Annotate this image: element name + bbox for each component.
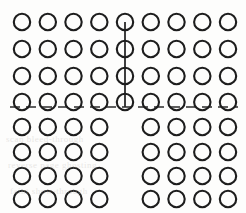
node-circle [14,191,30,207]
node-circle [143,41,159,57]
node-circle [91,68,107,84]
node-circle [40,94,56,110]
node-circle [91,168,107,184]
figure-container: scan bleed-through reverse page ghosting… [0,0,246,213]
node-circle [65,119,81,135]
node-circle [65,191,81,207]
node-circle [91,191,107,207]
node-circle [194,144,210,160]
node-circle [117,41,133,57]
node-circle [194,14,210,30]
node-circle [220,68,236,84]
node-circle [91,144,107,160]
node-circle [65,94,81,110]
node-circle [220,94,236,110]
node-circle [14,14,30,30]
node-circles-group [14,14,236,207]
node-circle [143,94,159,110]
node-circle [220,119,236,135]
node-circle [40,168,56,184]
node-circle [14,68,30,84]
node-circle [194,68,210,84]
node-circle [65,68,81,84]
node-circle [194,119,210,135]
node-circle [40,144,56,160]
node-circle [117,94,133,110]
node-circle [143,168,159,184]
node-circle [220,41,236,57]
node-circle [65,41,81,57]
node-circle [220,14,236,30]
node-circle [194,41,210,57]
node-grid-diagram [0,0,246,213]
node-circle [220,191,236,207]
node-circle [40,14,56,30]
node-circle [168,144,184,160]
node-circle [14,94,30,110]
node-circle [168,14,184,30]
node-circle [40,119,56,135]
node-circle [168,168,184,184]
node-circle [40,191,56,207]
node-circle [168,68,184,84]
node-circle [143,119,159,135]
node-circle [117,14,133,30]
node-circle [91,119,107,135]
node-circle [194,94,210,110]
node-circle [117,68,133,84]
node-circle [143,191,159,207]
node-circle [143,68,159,84]
node-circle [14,119,30,135]
node-circle [65,144,81,160]
node-circle [14,168,30,184]
node-circle [65,168,81,184]
node-circle [168,119,184,135]
node-circle [91,94,107,110]
node-circle [143,14,159,30]
node-circle [143,144,159,160]
node-circle [91,41,107,57]
node-circle [40,68,56,84]
node-circle [168,41,184,57]
node-circle [194,168,210,184]
node-circle [220,144,236,160]
node-circle [220,168,236,184]
node-circle [168,191,184,207]
node-circle [168,94,184,110]
node-circle [91,14,107,30]
node-circle [14,41,30,57]
node-circle [65,14,81,30]
node-circle [40,41,56,57]
node-circle [194,191,210,207]
node-circle [14,144,30,160]
